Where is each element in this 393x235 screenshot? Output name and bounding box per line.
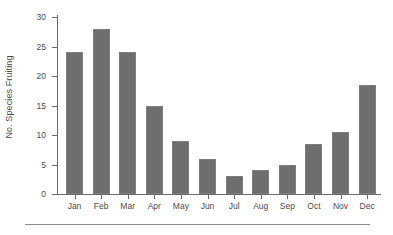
bar-chart-figure: No. Species Fruiting 051015202530 JanFeb…	[0, 0, 393, 235]
y-axis-tick-label: 15	[6, 102, 46, 111]
bar-aug	[252, 170, 269, 194]
y-axis-tick-label: 5	[6, 161, 46, 170]
x-axis-tick	[341, 195, 342, 199]
x-axis-tick	[287, 195, 288, 199]
x-axis-tick	[128, 195, 129, 199]
bar-sep	[279, 165, 296, 195]
y-axis-tick-label: 20	[6, 72, 46, 81]
bar-jul	[226, 176, 243, 194]
bar-nov	[332, 132, 349, 194]
x-axis-tick	[101, 195, 102, 199]
bar-mar	[119, 52, 136, 194]
y-axis-tick-label: 30	[6, 13, 46, 22]
y-axis-tick-label: 10	[6, 131, 46, 140]
x-axis-tick	[367, 195, 368, 199]
x-axis-tick	[314, 195, 315, 199]
x-axis-tick	[75, 195, 76, 199]
bar-may	[172, 141, 189, 194]
x-axis-line	[57, 194, 381, 195]
bar-apr	[146, 106, 163, 195]
y-axis-tick	[52, 194, 57, 195]
bottom-divider-rule	[25, 224, 370, 225]
bar-oct	[305, 144, 322, 194]
bar-jun	[199, 159, 216, 194]
y-axis-tick-label: 25	[6, 43, 46, 52]
y-axis-tick-label: 0	[6, 190, 46, 199]
x-axis-tick	[181, 195, 182, 199]
bar-jan	[66, 52, 83, 194]
plot-area	[57, 17, 380, 194]
x-axis-tick	[208, 195, 209, 199]
x-axis-tick	[234, 195, 235, 199]
x-axis-tick	[154, 195, 155, 199]
bar-dec	[359, 85, 376, 194]
x-axis-label-dec: Dec	[350, 202, 384, 211]
bar-feb	[93, 29, 110, 194]
x-axis-tick	[261, 195, 262, 199]
